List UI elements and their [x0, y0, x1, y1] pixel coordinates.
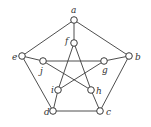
edge-a-b — [74, 20, 129, 56]
nodes-group — [19, 17, 133, 115]
node-label-e: e — [12, 52, 17, 62]
node-label-b: b — [135, 52, 141, 62]
node-label-j: j — [38, 66, 43, 76]
node-label-h: h — [96, 86, 102, 96]
node-i — [55, 87, 62, 94]
node-f — [71, 40, 78, 47]
edge-b-g — [104, 56, 129, 61]
node-a — [71, 17, 78, 24]
edge-f-i — [58, 43, 74, 90]
node-label-f: f — [64, 36, 70, 46]
node-label-a: a — [71, 5, 76, 15]
node-c — [97, 108, 104, 115]
node-d — [50, 108, 57, 115]
node-label-g: g — [102, 65, 108, 75]
node-label-d: d — [44, 107, 50, 117]
node-b — [126, 53, 133, 60]
node-h — [88, 87, 95, 94]
node-j — [40, 58, 47, 65]
node-e — [19, 53, 26, 60]
node-label-i: i — [51, 85, 54, 95]
node-g — [101, 58, 108, 65]
node-label-c: c — [106, 107, 111, 117]
edges-group — [22, 20, 129, 111]
edge-f-h — [74, 43, 91, 90]
graph-canvas: abcdefghij — [0, 0, 151, 127]
petersen-graph-diagram: abcdefghij — [0, 0, 151, 127]
